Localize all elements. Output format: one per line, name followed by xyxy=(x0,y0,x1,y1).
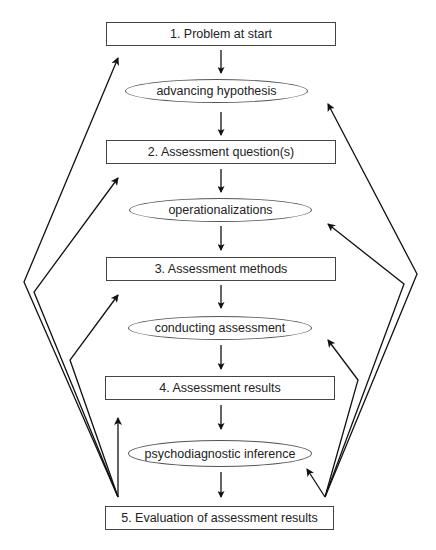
step-3-label: 3. Assessment methods xyxy=(155,262,288,276)
step-4-label: 4. Assessment results xyxy=(159,381,281,395)
step-1-problem-box: 1. Problem at start xyxy=(106,22,336,46)
psychodiagnostic-inference-ellipse: psychodiagnostic inference xyxy=(128,440,312,467)
feedback-arrow-to-inference xyxy=(307,469,325,497)
step-2-question-box: 2. Assessment question(s) xyxy=(106,140,336,164)
conducting-assessment-ellipse: conducting assessment xyxy=(128,316,312,340)
advancing-hypothesis-ellipse: advancing hypothesis xyxy=(125,79,308,103)
step-5-label: 5. Evaluation of assessment results xyxy=(121,511,318,525)
operationalizations-label: operationalizations xyxy=(168,203,272,217)
feedback-arrow-to-step-1 xyxy=(24,58,118,497)
step-2-label: 2. Assessment question(s) xyxy=(148,145,295,159)
operationalizations-ellipse: operationalizations xyxy=(129,198,312,222)
step-4-results-box: 4. Assessment results xyxy=(105,376,335,400)
step-3-methods-box: 3. Assessment methods xyxy=(106,257,336,281)
feedback-arrow-to-conducting xyxy=(325,340,358,497)
advancing-hypothesis-label: advancing hypothesis xyxy=(156,84,276,98)
step-1-label: 1. Problem at start xyxy=(170,27,272,41)
conducting-assessment-label: conducting assessment xyxy=(155,321,286,335)
psychodiagnostic-inference-label: psychodiagnostic inference xyxy=(145,447,296,461)
step-5-evaluation-box: 5. Evaluation of assessment results xyxy=(105,506,334,530)
feedback-arrow-to-hypothesis xyxy=(325,104,417,497)
feedback-arrow-to-step-2 xyxy=(34,178,118,497)
